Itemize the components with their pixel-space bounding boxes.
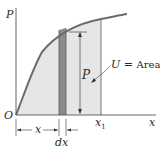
p-height-label: P bbox=[82, 69, 90, 81]
p-axis-label: P bbox=[6, 9, 13, 20]
x1-label: x1 bbox=[95, 117, 106, 128]
area-word: Area bbox=[137, 59, 161, 70]
diagram-canvas bbox=[0, 0, 160, 149]
dx-strip bbox=[59, 28, 66, 115]
work-diagram: P O x x1 P U = Area x dx bbox=[0, 0, 160, 149]
dx-dim-label: dx bbox=[55, 137, 68, 148]
x-dim-arrow-right-icon bbox=[54, 129, 58, 132]
x-axis-label: x bbox=[149, 117, 155, 128]
x-dim-arrow-left-icon bbox=[17, 129, 21, 132]
area-u-symbol: U bbox=[111, 58, 120, 71]
area-equals: = bbox=[124, 58, 133, 71]
x1-subscript: 1 bbox=[101, 123, 105, 131]
x-dim-label: x bbox=[35, 124, 41, 135]
area-equation: U = Area bbox=[111, 59, 160, 70]
area-under-curve bbox=[16, 19, 101, 115]
dx-dim-arrow-icon bbox=[67, 129, 71, 132]
origin-label: O bbox=[4, 110, 13, 121]
